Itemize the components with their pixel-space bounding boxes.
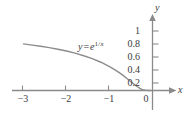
x-tick-label-minus3: −3 — [14, 94, 32, 104]
equation-exponent-denominator: x — [101, 40, 104, 48]
equation-operator: = — [82, 41, 90, 52]
x-tick-label-minus2: −2 — [57, 94, 75, 104]
x-tick-label-zero: 0 — [141, 94, 151, 104]
y-axis-label: y — [155, 3, 159, 13]
equation-exponent: 1/x — [95, 40, 104, 48]
x-axis-label: x — [178, 85, 182, 95]
y-tick-label-0-4: 0.4 — [118, 65, 140, 75]
x-axis — [12, 86, 177, 94]
y-tick-label-1: 1 — [118, 26, 140, 36]
equation-annotation: y=e1/x — [78, 42, 104, 52]
x-axis-arrowhead — [169, 87, 177, 94]
y-tick-label-0-2: 0.2 — [118, 78, 140, 88]
function-graph-figure: −3 −2 −1 0 1 0.8 0.6 0.4 0.2 x y y=e1/x — [0, 0, 191, 118]
y-tick-label-0-6: 0.6 — [118, 52, 140, 62]
y-tick-label-0-8: 0.8 — [118, 39, 140, 49]
y-axis-arrowhead — [149, 14, 156, 21]
x-tick-label-minus1: −1 — [100, 94, 118, 104]
